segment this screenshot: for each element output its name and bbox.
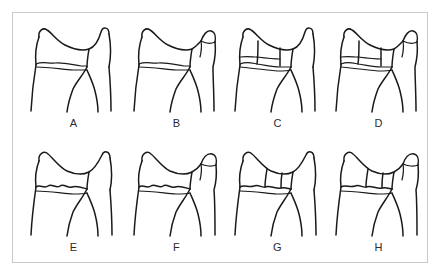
specimen-e-drawing (21, 143, 126, 243)
specimen-g-label: G (225, 241, 330, 253)
specimen-b-drawing (124, 19, 229, 119)
specimen-a: A (21, 19, 126, 137)
specimen-h-drawing (326, 143, 431, 243)
specimen-g-drawing (225, 143, 330, 243)
specimen-f: F (124, 143, 229, 261)
specimen-a-label: A (21, 117, 126, 129)
specimen-b: B (124, 19, 229, 137)
specimen-d-label: D (326, 117, 431, 129)
specimen-d: D (326, 19, 431, 137)
specimen-c-label: C (225, 117, 330, 129)
specimen-c: C (225, 19, 330, 137)
specimen-h-label: H (326, 241, 431, 253)
specimen-a-drawing (21, 19, 126, 119)
specimen-g: G (225, 143, 330, 261)
figure-frame: A B (12, 12, 428, 263)
specimen-d-drawing (326, 19, 431, 119)
specimen-f-label: F (124, 241, 229, 253)
specimen-b-label: B (124, 117, 229, 129)
specimen-c-drawing (225, 19, 330, 119)
specimen-e-label: E (21, 241, 126, 253)
specimen-h: H (326, 143, 431, 261)
specimen-f-drawing (124, 143, 229, 243)
figure-root: A B (0, 0, 444, 275)
specimen-e: E (21, 143, 126, 261)
